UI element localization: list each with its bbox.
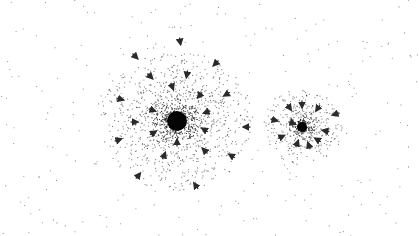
particle (210, 135, 211, 136)
particle (198, 100, 199, 101)
infall-arrow-icon (308, 143, 310, 150)
particle (193, 124, 194, 125)
particle (296, 176, 297, 177)
particle (331, 141, 332, 142)
particle (196, 117, 197, 118)
particle (303, 120, 304, 121)
particle (66, 155, 67, 156)
particle (174, 104, 175, 105)
particle (197, 170, 198, 171)
particle (276, 148, 277, 149)
particle (127, 130, 128, 131)
particle (109, 89, 110, 90)
particle (161, 124, 162, 125)
particle (201, 76, 202, 77)
particle (183, 161, 184, 162)
particle (220, 100, 221, 101)
particle (283, 55, 284, 56)
particle (321, 145, 322, 146)
particle (174, 26, 175, 27)
particle (210, 95, 211, 96)
particle (326, 109, 327, 110)
particle (227, 107, 228, 108)
particle (190, 134, 191, 135)
particle (174, 82, 175, 83)
particle (123, 97, 124, 98)
particle (130, 116, 131, 117)
particle (320, 129, 321, 130)
particle (135, 124, 136, 125)
particle (180, 134, 181, 135)
particle (309, 127, 310, 128)
particle (210, 100, 211, 101)
particle (144, 147, 145, 148)
particle (74, 0, 75, 1)
particle (139, 138, 140, 139)
infall-arrow-icon (194, 183, 198, 189)
particle (293, 108, 294, 109)
particle (306, 116, 307, 117)
particle (131, 154, 132, 155)
particle (306, 30, 307, 31)
particle (187, 180, 188, 181)
particle (160, 128, 161, 129)
particle (56, 180, 57, 181)
particle (219, 122, 220, 123)
particle (170, 134, 171, 135)
particle (224, 151, 225, 152)
particle (165, 179, 166, 180)
particle (276, 141, 277, 142)
particle (174, 65, 175, 66)
particle (140, 87, 141, 88)
particle (400, 122, 401, 123)
particle (155, 92, 156, 93)
particle (240, 115, 241, 116)
particle (293, 111, 294, 112)
particle (202, 178, 203, 179)
particle (180, 82, 181, 83)
particle (118, 160, 119, 161)
particle (343, 231, 344, 232)
particle (149, 90, 150, 91)
particle (293, 135, 294, 136)
particle (311, 130, 312, 131)
particle (213, 100, 214, 101)
particle (201, 121, 202, 122)
particle (205, 90, 206, 91)
particle (247, 95, 248, 96)
particle (341, 125, 342, 126)
particle (195, 81, 196, 82)
particle (364, 48, 365, 49)
particle (205, 147, 206, 148)
particle (133, 165, 134, 166)
particle (130, 153, 131, 154)
particle (128, 128, 129, 129)
particle (86, 65, 87, 66)
particle (155, 191, 156, 192)
particle (287, 132, 288, 133)
particle (293, 117, 294, 118)
particle (153, 148, 154, 149)
particle (119, 83, 120, 84)
particle (205, 164, 206, 165)
particle (183, 107, 184, 108)
particle (277, 119, 278, 120)
particle (324, 112, 325, 113)
particle (156, 136, 157, 137)
particle (206, 85, 207, 86)
particle (223, 115, 224, 116)
particle (197, 92, 198, 93)
particle (202, 134, 203, 135)
particle (144, 125, 145, 126)
particle (247, 116, 248, 117)
particle (302, 146, 303, 147)
particle (117, 151, 118, 152)
particle (236, 118, 237, 119)
particle (178, 101, 179, 102)
particle (188, 77, 189, 78)
particle (150, 71, 151, 72)
particle (299, 112, 300, 113)
particle (157, 82, 158, 83)
particle (191, 120, 192, 121)
particle (187, 147, 188, 148)
